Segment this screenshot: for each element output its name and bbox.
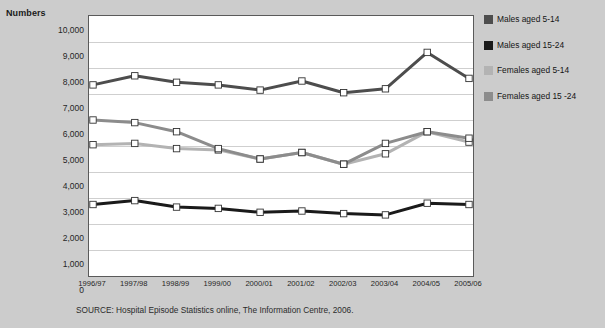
data-point-marker: [132, 119, 138, 125]
x-tick-label: 2001/02: [287, 279, 314, 288]
series-line: [93, 120, 469, 164]
data-point-marker: [132, 73, 138, 79]
x-tick-label: 1998/99: [162, 279, 189, 288]
legend-item-label: Males aged 15-24: [497, 40, 564, 51]
data-point-marker: [299, 208, 305, 214]
y-tick-label: 10,000: [40, 25, 84, 35]
legend-item-3[interactable]: Females aged 15 -24: [484, 91, 602, 102]
legend-swatch-icon: [484, 66, 493, 75]
y-tick-label: 3,000: [40, 207, 84, 217]
chart-screenshot: Numbers 10,0009,0008,0007,0006,0005,0004…: [0, 0, 605, 328]
y-tick-label: 4,000: [40, 181, 84, 191]
y-tick-label: 6,000: [40, 129, 84, 139]
data-point-marker: [90, 82, 96, 88]
data-point-marker: [215, 205, 221, 211]
legend-item-2[interactable]: Females aged 5-14: [484, 65, 602, 76]
data-point-marker: [424, 200, 430, 206]
legend-swatch-icon: [484, 92, 493, 101]
data-point-marker: [90, 117, 96, 123]
legend-item-label: Males aged 5-14: [497, 14, 559, 25]
data-point-marker: [132, 197, 138, 203]
legend-swatch-icon: [484, 41, 493, 50]
data-point-marker: [382, 212, 388, 218]
legend-item-0[interactable]: Males aged 5-14: [484, 14, 602, 25]
x-tick-label: 1996/97: [78, 279, 105, 288]
legend-item-label: Females aged 15 -24: [497, 91, 576, 102]
data-point-marker: [173, 145, 179, 151]
x-tick-label: 2000/01: [245, 279, 272, 288]
legend-item-label: Females aged 5-14: [497, 65, 569, 76]
y-tick-label: 1,000: [40, 259, 84, 269]
legend-item-1[interactable]: Males aged 15-24: [484, 40, 602, 51]
data-point-marker: [257, 156, 263, 162]
data-point-marker: [424, 129, 430, 135]
x-tick-label: 2003/04: [371, 279, 398, 288]
data-point-marker: [424, 49, 430, 55]
data-point-marker: [257, 87, 263, 93]
x-tick-label: 2004/05: [412, 279, 439, 288]
data-point-marker: [382, 151, 388, 157]
data-point-marker: [173, 79, 179, 85]
plot-inner: [89, 16, 473, 276]
x-tick-label: 2002/03: [329, 279, 356, 288]
data-point-marker: [257, 209, 263, 215]
y-tick-label: 8,000: [40, 77, 84, 87]
x-tick-label: 2005/06: [454, 279, 481, 288]
chart-legend: Males aged 5-14Males aged 15-24Females a…: [484, 14, 602, 116]
data-point-marker: [132, 140, 138, 146]
y-tick-label: 2,000: [40, 233, 84, 243]
x-axis-tick-labels: 1996/971997/981998/991999/002000/012001/…: [88, 279, 472, 295]
data-point-marker: [215, 145, 221, 151]
plot-area: [88, 15, 474, 277]
data-point-marker: [173, 129, 179, 135]
data-point-marker: [382, 86, 388, 92]
data-point-marker: [90, 142, 96, 148]
y-axis-tick-labels: 10,0009,0008,0007,0006,0005,0004,0003,00…: [38, 15, 84, 275]
y-tick-label: 7,000: [40, 103, 84, 113]
data-point-marker: [340, 210, 346, 216]
data-point-marker: [466, 201, 472, 207]
data-point-marker: [299, 149, 305, 155]
y-tick-label: 9,000: [40, 51, 84, 61]
data-point-marker: [90, 201, 96, 207]
data-point-marker: [173, 204, 179, 210]
data-point-marker: [466, 135, 472, 141]
x-tick-label: 1999/00: [204, 279, 231, 288]
legend-swatch-icon: [484, 15, 493, 24]
series-line: [93, 52, 469, 92]
data-point-marker: [215, 82, 221, 88]
x-tick-label: 1997/98: [120, 279, 147, 288]
series-layer: [89, 16, 473, 276]
data-point-marker: [340, 90, 346, 96]
series-line: [93, 201, 469, 215]
data-point-marker: [382, 140, 388, 146]
data-point-marker: [466, 75, 472, 81]
data-point-marker: [340, 161, 346, 167]
source-note: SOURCE: Hospital Episode Statistics onli…: [76, 305, 353, 315]
y-tick-label: 5,000: [40, 155, 84, 165]
data-point-marker: [299, 78, 305, 84]
